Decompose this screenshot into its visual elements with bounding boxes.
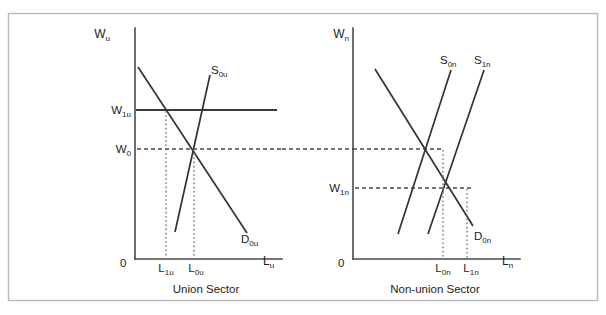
nonunion-y-axis-label-sub: n bbox=[345, 34, 349, 43]
union-y-axis-label-base: W bbox=[94, 27, 106, 41]
nonunion-curve-label-s0n-sub: 0n bbox=[448, 60, 457, 69]
union-quantity-label-l1u-sub: 1u bbox=[165, 268, 174, 277]
union-y-axis-label-sub: u bbox=[106, 34, 110, 43]
nonunion-curve-label-d0n-base: D bbox=[474, 230, 482, 242]
nonunion-origin-label: 0 bbox=[338, 257, 344, 269]
nonunion-x-axis-label-sub: n bbox=[509, 261, 513, 270]
union-origin-label: 0 bbox=[120, 257, 126, 269]
nonunion-curve-label-d0n-sub: 0n bbox=[482, 236, 491, 245]
nonunion-quantity-label-l0n-sub: 0n bbox=[442, 268, 451, 277]
union-wage-label-w0-sub: 0 bbox=[127, 149, 132, 158]
nonunion-quantity-label-l1n-sub: 1n bbox=[470, 268, 479, 277]
union-wage-label-w0-base: W bbox=[116, 143, 127, 155]
union-x-axis-label-sub: u bbox=[270, 261, 274, 270]
union-wage-label-w1u-base: W bbox=[111, 104, 122, 116]
union-quantity-label-l0u-sub: 0u bbox=[195, 268, 204, 277]
nonunion-wage-label-w1n-sub: 1n bbox=[340, 188, 349, 197]
figure-frame bbox=[9, 14, 598, 301]
figure-root: Wu Lu 0 W1u W0 L1u L0u S0u bbox=[0, 0, 606, 315]
economics-diagram: Wu Lu 0 W1u W0 L1u L0u S0u bbox=[0, 0, 606, 315]
nonunion-curve-label-s1n-sub: 1n bbox=[482, 60, 491, 69]
non-union-sector-caption: Non-union Sector bbox=[390, 283, 480, 295]
nonunion-y-axis-label-base: W bbox=[333, 27, 345, 41]
union-wage-label-w1u-sub: 1u bbox=[122, 110, 131, 119]
union-sector-caption: Union Sector bbox=[173, 283, 240, 295]
union-curve-label-d0u-sub: 0u bbox=[249, 239, 258, 248]
nonunion-wage-label-w1n-base: W bbox=[329, 182, 340, 194]
union-curve-label-s0u-sub: 0u bbox=[219, 70, 228, 79]
union-curve-label-d0u-base: D bbox=[241, 233, 249, 245]
